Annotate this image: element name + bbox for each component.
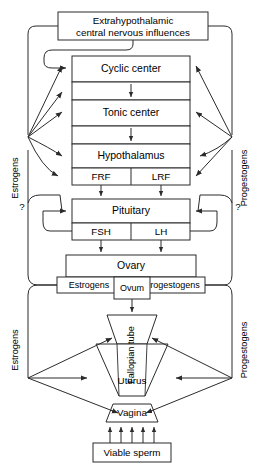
- lrf-label: LRF: [152, 171, 171, 182]
- extrahypothalamic-box: Extrahypothalamic central nervous influe…: [58, 12, 208, 40]
- ovary-progestogens-label: Progestogens: [144, 280, 200, 290]
- reproductive-tract: Fallopian tube Uterus Vagina: [96, 315, 168, 422]
- brain-stack: Cyclic center Tonic center Hypothalamus …: [72, 56, 190, 185]
- progestogen-to-lrf-arrow: [196, 137, 232, 176]
- ovary-label: Ovary: [117, 259, 146, 271]
- hypothalamus-label: Hypothalamus: [97, 149, 164, 161]
- ovum-label: Ovum: [120, 283, 144, 293]
- sperm-arrows: [110, 427, 154, 443]
- estrogens-label-upper: Estrogens: [10, 157, 20, 199]
- estrogens-label-lower: Estrogens: [10, 329, 20, 371]
- progestogen-to-cyclic-arrow: [196, 66, 232, 137]
- viable-sperm-label: Viable sperm: [104, 447, 161, 458]
- tonic-center-label: Tonic center: [103, 106, 160, 118]
- ovary-estrogens-label: Estrogens: [69, 280, 110, 290]
- estrogen-to-frf-arrow: [28, 137, 58, 176]
- cyclic-center-label: Cyclic center: [101, 62, 162, 74]
- uterus-label: Uterus: [118, 375, 147, 386]
- lh-label: LH: [155, 226, 168, 237]
- viable-sperm-box: Viable sperm: [93, 443, 171, 462]
- progestogens-label-upper: Progestogens: [239, 149, 249, 206]
- estrogen-to-band1-arrow: [28, 92, 62, 137]
- estrogen-to-tube-arrow: [28, 338, 112, 378]
- estrogens-query-label: ?: [19, 201, 25, 212]
- vagina-label: Vagina: [117, 407, 147, 418]
- extrahypothalamic-line2: central nervous influences: [76, 27, 190, 38]
- hypothalamic-pituitary-ovarian-axis-diagram: Extrahypothalamic central nervous influe…: [0, 0, 261, 468]
- progestogen-to-vagina-arrow: [146, 378, 232, 413]
- frf-label: FRF: [91, 171, 110, 182]
- progestogens-label-lower: Progestogens: [239, 321, 249, 378]
- extrahypothalamic-line1: Extrahypothalamic: [93, 15, 174, 26]
- estrogen-to-tonic-arrow: [28, 112, 62, 137]
- estrogen-to-cyclic-arrow: [28, 66, 62, 137]
- progestogen-to-tonic-arrow: [196, 112, 232, 137]
- progestogen-to-hypothalamus-arrow: [200, 137, 232, 156]
- title-right-route: [208, 26, 232, 135]
- pituitary-label: Pituitary: [112, 204, 151, 216]
- progestogen-to-tube-arrow: [152, 338, 232, 378]
- fsh-label: FSH: [91, 226, 111, 237]
- pituitary-stack: Pituitary FSH LH: [72, 199, 190, 240]
- ovary-stack: Ovary Estrogens Progestogens Ovum: [57, 255, 205, 299]
- estrogen-to-vagina-arrow: [28, 378, 118, 413]
